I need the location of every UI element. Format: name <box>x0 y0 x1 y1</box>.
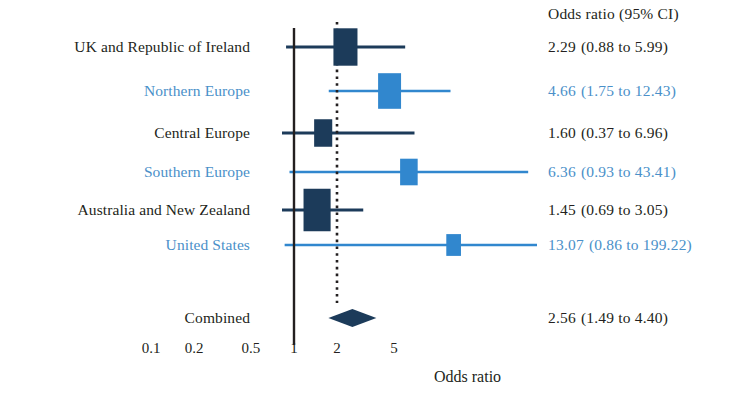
x-axis-tick-label: 0.1 <box>142 340 161 357</box>
confidence-interval-text: (0.86 to 199.22) <box>589 236 692 253</box>
confidence-interval-text: (0.69 to 3.05) <box>581 201 668 218</box>
effect-estimate-value: 2.29(0.88 to 5.99) <box>548 38 668 56</box>
effect-size-box <box>314 119 332 147</box>
summary-diamond-layer <box>328 309 376 327</box>
confidence-interval-text: (1.75 to 12.43) <box>581 82 676 99</box>
x-axis-tick-label: 0.2 <box>185 340 204 357</box>
effect-estimate-value: 13.07(0.86 to 199.22) <box>548 236 692 254</box>
effect-size-box <box>304 189 331 232</box>
estimate-number: 4.66 <box>548 82 576 99</box>
estimate-number: 1.60 <box>548 124 576 141</box>
effect-estimate-value: 4.66(1.75 to 12.43) <box>548 82 676 100</box>
effect-estimate-value: 6.36(0.93 to 43.41) <box>548 163 676 181</box>
study-label: UK and Republic of Ireland <box>74 39 250 55</box>
study-label: Combined <box>185 310 250 326</box>
study-label: Southern Europe <box>144 164 250 180</box>
forest-plot: Odds ratio (95% CI) UK and Republic of I… <box>0 0 739 403</box>
summary-diamond <box>328 309 376 327</box>
x-axis-tick-label: 2 <box>333 340 341 357</box>
study-label: United States <box>166 237 250 253</box>
estimate-number: 2.29 <box>548 38 576 55</box>
confidence-interval-text: (0.93 to 43.41) <box>581 163 676 180</box>
effect-size-box <box>378 73 401 109</box>
x-axis-tick-label: 0.5 <box>242 340 261 357</box>
study-label: Central Europe <box>154 125 250 141</box>
effect-size-box <box>333 28 357 65</box>
x-axis-tick-label: 5 <box>390 340 398 357</box>
estimate-number: 1.45 <box>548 201 576 218</box>
effect-estimate-value: 1.45(0.69 to 3.05) <box>548 201 668 219</box>
x-axis-tick-label: 1 <box>290 340 298 357</box>
estimate-number: 13.07 <box>548 236 584 253</box>
study-label: Australia and New Zealand <box>77 202 250 218</box>
estimate-number: 6.36 <box>548 163 576 180</box>
effect-estimate-value: 2.56(1.49 to 4.40) <box>548 309 668 327</box>
effect-size-box <box>446 234 461 256</box>
marker-layer <box>304 28 461 256</box>
confidence-interval-text: (1.49 to 4.40) <box>581 309 668 326</box>
effect-size-box <box>400 159 418 186</box>
confidence-interval-text: (0.37 to 6.96) <box>581 124 668 141</box>
confidence-interval-text: (0.88 to 5.99) <box>581 38 668 55</box>
estimate-number: 2.56 <box>548 309 576 326</box>
x-axis-title: Odds ratio <box>434 368 501 386</box>
study-label: Northern Europe <box>144 83 250 99</box>
effect-estimate-value: 1.60(0.37 to 6.96) <box>548 124 668 142</box>
